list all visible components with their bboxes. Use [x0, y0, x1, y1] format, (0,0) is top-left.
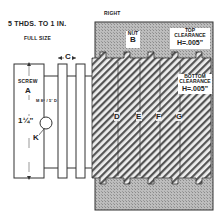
top-clearance-box: TOP CLEARANCE H=.005"	[170, 28, 210, 49]
diameter-label: 1¼"	[18, 116, 34, 125]
nut-label-box: NUT B	[126, 31, 140, 48]
thread-letter-g: G	[176, 112, 182, 121]
screw-label: SCREW	[18, 78, 38, 84]
bottom-clearance-box: BOTTOM CLEARANCE H=.005"	[178, 74, 212, 94]
screw-thread-section	[92, 52, 211, 184]
screw-letter: A	[25, 86, 31, 95]
pin-label: K	[33, 133, 39, 142]
angle-label: M 8° / 5' D	[36, 98, 57, 103]
thread-letter-d: D	[114, 112, 120, 121]
thread-letter-e: E	[136, 112, 142, 121]
scale-label: 5 THDS. TO 1 IN.	[8, 20, 66, 27]
thread-letter-f: F	[156, 112, 161, 121]
pin-circle	[40, 117, 52, 129]
thread-plate-2	[76, 64, 85, 178]
view-label: RIGHT	[104, 10, 121, 16]
thread-plate-1	[58, 64, 67, 178]
dimension-c-label: C	[64, 52, 72, 61]
full-size-label: FULL SIZE	[24, 35, 51, 41]
